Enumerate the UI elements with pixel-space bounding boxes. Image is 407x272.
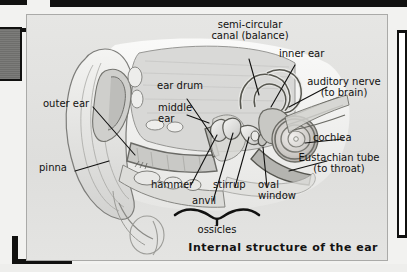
ear-diagram-panel: semi-circular canal (balance) inner ear … xyxy=(26,14,388,261)
scanned-textbook-page: semi-circular canal (balance) inner ear … xyxy=(0,0,407,272)
page-border-right-inner xyxy=(399,33,405,235)
page-bottom-margin xyxy=(0,264,407,272)
label-inner-ear: inner ear xyxy=(279,49,324,60)
label-eustachian-tube: Eustachian tube (to throat) xyxy=(291,153,387,174)
figure-caption: Internal structure of the ear xyxy=(188,241,378,254)
label-hammer: hammer xyxy=(151,180,193,191)
label-outer-ear: outer ear xyxy=(43,99,89,110)
label-cochlea: cochlea xyxy=(313,133,352,144)
label-auditory-nerve: auditory nerve (to brain) xyxy=(301,77,387,98)
label-ear-drum: ear drum xyxy=(157,81,203,92)
label-anvil: anvil xyxy=(192,196,216,207)
page-border-top-left xyxy=(0,0,27,5)
label-oval-window: oval window xyxy=(258,180,296,201)
label-middle-ear: middle ear xyxy=(158,103,192,124)
label-pinna: pinna xyxy=(39,163,67,174)
label-stirrup: stirrup xyxy=(213,180,246,191)
page-border-top xyxy=(50,0,407,7)
label-ossicles: ossicles xyxy=(179,225,255,236)
label-semicircular-canal: semi-circular canal (balance) xyxy=(195,20,305,41)
adjacent-figure-fragment xyxy=(0,27,22,81)
